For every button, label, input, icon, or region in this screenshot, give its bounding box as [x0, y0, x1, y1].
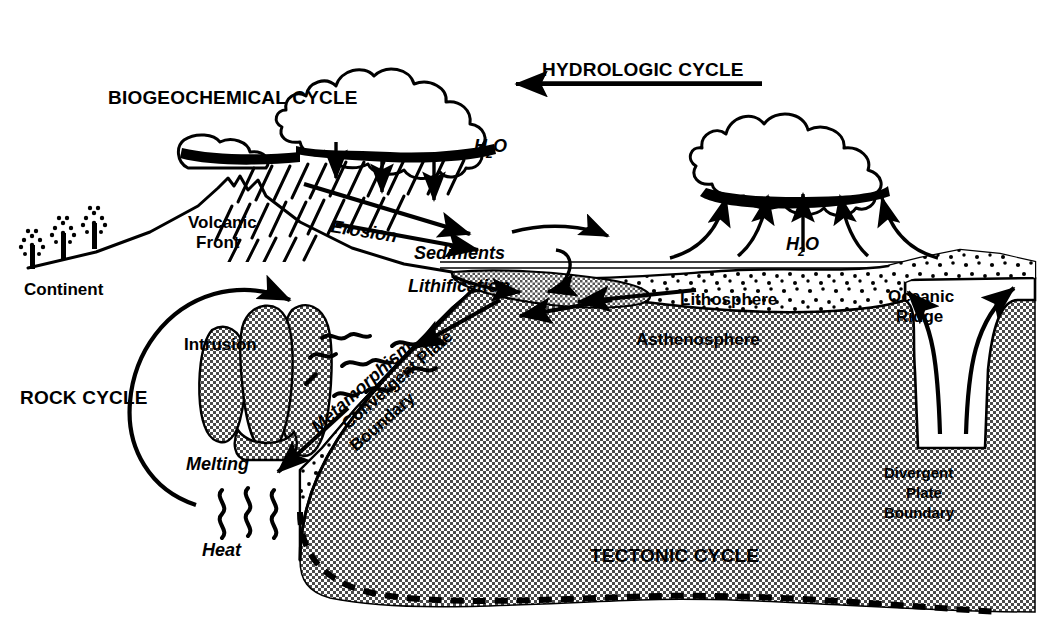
label-volcanic-front-1: Volcanic [188, 213, 257, 232]
tree-icon [81, 206, 107, 249]
label-oceanic-ridge-2: Ridge [896, 307, 943, 326]
label-divergent-1: Divergent [884, 464, 953, 481]
label-lithification: Lithification [408, 276, 510, 296]
label-volcanic-front-2: Front [196, 233, 240, 252]
label-divergent-3: Boundary [884, 504, 955, 521]
label-sediments: Sediments [414, 243, 505, 263]
label-tectonic-cycle: TECTONIC CYCLE [590, 545, 759, 566]
evaporation-cloud-icon [690, 114, 890, 216]
intrusion-pluton [199, 305, 331, 460]
svg-text:O: O [805, 234, 819, 254]
svg-text:O: O [493, 136, 507, 156]
tree-icon [50, 216, 76, 259]
sediment-transport-arrow [512, 226, 608, 236]
label-oceanic-ridge-1: Oceanic [888, 287, 954, 306]
tree-icon [19, 229, 45, 269]
label-melting: Melting [186, 454, 249, 474]
svg-text:2: 2 [797, 245, 805, 259]
label-lithosphere: Lithosphere [680, 290, 777, 309]
diagram-canvas: BIOGEOCHEMICAL CYCLE HYDROLOGIC CYCLE RO… [0, 0, 1040, 629]
label-biogeochemical-cycle: BIOGEOCHEMICAL CYCLE [108, 87, 358, 108]
label-continent: Continent [24, 280, 104, 299]
label-asthenosphere: Asthenosphere [636, 330, 760, 349]
label-divergent-2: Plate [906, 484, 942, 501]
svg-text:2: 2 [485, 147, 493, 161]
label-rock-cycle: ROCK CYCLE [20, 387, 148, 408]
label-intrusion: Intrusion [184, 335, 257, 354]
heat-squiggles [220, 488, 277, 538]
label-heat: Heat [202, 540, 242, 560]
label-hydrologic-cycle: HYDROLOGIC CYCLE [542, 59, 744, 80]
